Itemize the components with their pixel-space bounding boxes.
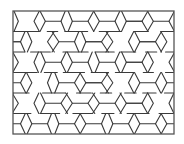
tile-edge: [0, 73, 4, 94]
tile-edge: [0, 32, 5, 53]
tile-edge: [41, 93, 46, 114]
tile-edge: [21, 114, 26, 135]
tile-edge: [34, 52, 38, 73]
tile-edge: [120, 93, 126, 114]
tile-edge: [7, 11, 11, 32]
tile-edge: [106, 32, 113, 53]
tile-edge: [94, 11, 100, 32]
tile-edge: [48, 32, 55, 53]
tile-edge: [102, 114, 106, 135]
tile-edge: [115, 52, 120, 73]
tile-edge: [122, 52, 127, 73]
tile-edge: [27, 114, 32, 135]
tile-edge: [75, 32, 79, 53]
tile-edge: [48, 73, 52, 94]
tile-edge: [142, 11, 148, 32]
tile-edge: [106, 73, 113, 94]
tile-edge: [21, 73, 26, 94]
tile-edge: [135, 73, 140, 94]
tile-edge: [161, 32, 167, 53]
tile-edge: [148, 93, 154, 114]
tile-edge: [81, 32, 85, 53]
tile-edge: [161, 114, 167, 135]
tile-edge: [75, 73, 81, 94]
tile-edge: [169, 93, 174, 114]
tile-edge: [129, 32, 134, 53]
tile-edge: [0, 114, 5, 135]
tile-edge: [109, 114, 113, 135]
tile-edge: [48, 114, 52, 135]
tile-edge: [115, 93, 121, 114]
tile-edge: [93, 93, 100, 114]
tile-edge: [21, 32, 26, 53]
tile-edge: [175, 11, 180, 32]
tile-edge: [52, 32, 59, 53]
tile-edge: [156, 114, 162, 135]
tile-edge: [68, 11, 72, 32]
tile-edge: [27, 32, 32, 53]
tile-edge: [67, 52, 72, 73]
tile-edge: [129, 73, 134, 94]
tile-edge: [148, 52, 153, 73]
tile-edge: [75, 114, 81, 135]
tile-edge: [14, 11, 18, 32]
tile-edge: [80, 73, 86, 94]
tile-edge: [61, 93, 68, 114]
tile-edge: [121, 11, 126, 32]
tile-edge: [88, 93, 95, 114]
tile-edge: [34, 11, 39, 32]
tile-edge: [156, 73, 161, 94]
tile-edge: [41, 52, 45, 73]
tile-edge: [147, 11, 153, 32]
tile-edge: [88, 52, 92, 73]
tile-edge: [175, 52, 181, 73]
tile-edge: [26, 73, 31, 94]
tile-edge: [7, 52, 13, 73]
tile-edge: [115, 11, 120, 32]
tile-edge: [135, 32, 140, 53]
tile-edge: [142, 93, 148, 114]
tile-edge: [156, 32, 162, 53]
tile-edge: [61, 11, 65, 32]
tile-edge: [95, 52, 99, 73]
tile-edge: [175, 93, 180, 114]
tile-edge: [55, 114, 59, 135]
tile-edge: [183, 73, 184, 94]
tile-edge: [102, 73, 109, 94]
tiling-pattern: [0, 11, 183, 134]
tiling-diagram: [0, 0, 183, 144]
tile-edge: [134, 114, 139, 135]
tile-edge: [129, 114, 134, 135]
tile-edge: [7, 93, 13, 114]
tile-edge: [34, 93, 39, 114]
tile-edge: [142, 52, 147, 73]
tile-edge: [162, 73, 167, 94]
tile-edge: [40, 11, 45, 32]
tile-edge: [66, 93, 73, 114]
tile-edge: [55, 73, 59, 94]
tile-edge: [61, 52, 66, 73]
tile-edge: [183, 114, 184, 135]
tile-edge: [183, 32, 184, 53]
tile-edge: [102, 32, 109, 53]
tile-edge: [88, 11, 94, 32]
tile-edge: [80, 114, 86, 135]
